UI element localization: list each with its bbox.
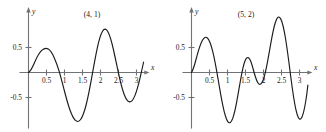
x-tick-label-2-5: 2.5 [114,76,124,85]
two-plot-figure: 0.5 1 1.5 2 2.5 3 0.5 -0.5 y x (4, 1) [0,0,326,132]
x-tick-label-0-5: 0.5 [42,76,52,85]
x-axis-arrowhead [144,70,149,74]
x-tick-label-3: 3 [135,76,139,85]
y-axis-label: y [194,7,199,16]
point-annotation-label: (5, 2) [238,10,255,19]
plot-svg-left: 0.5 1 1.5 2 2.5 3 0.5 -0.5 y x (4, 1) [0,0,163,132]
plot-panel-left: 0.5 1 1.5 2 2.5 3 0.5 -0.5 y x (4, 1) [0,0,163,132]
x-axis-label: x [150,63,155,72]
y-tick-label-neg-0-5: -0.5 [173,93,185,102]
x-tick-label-1: 1 [63,76,67,85]
y-axis-arrowhead [189,7,193,12]
x-tick-label-2: 2 [99,76,103,85]
y-tick-label-neg-0-5: -0.5 [10,93,22,102]
x-axis-label: x [313,63,318,72]
y-axis-label: y [31,7,36,16]
y-axis-arrowhead [26,7,30,12]
x-tick-label-1-5: 1.5 [78,76,88,85]
y-tick-label-0-5: 0.5 [176,43,186,52]
plot-svg-right: 0.5 1 1.5 2 2.5 3 0.5 -0.5 y x (5, 2) [163,0,326,132]
x-tick-label-1-5: 1.5 [241,76,251,85]
x-tick-label-1: 1 [226,76,230,85]
y-tick-label-0-5: 0.5 [13,43,23,52]
x-tick-label-3: 3 [298,76,302,85]
x-tick-label-0-5: 0.5 [205,76,215,85]
point-annotation-label: (4, 1) [84,10,101,19]
x-axis-arrowhead [307,70,312,74]
x-tick-label-2-5: 2.5 [277,76,287,85]
plot-panel-right: 0.5 1 1.5 2 2.5 3 0.5 -0.5 y x (5, 2) [163,0,326,132]
